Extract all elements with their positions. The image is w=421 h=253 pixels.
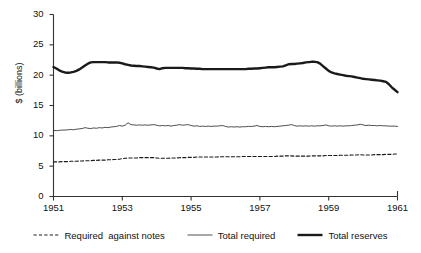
- chart-figure: $ (billions) 051015202530 19511953195519…: [0, 0, 421, 253]
- y-tick-label: 20: [22, 70, 44, 80]
- series-line: [54, 123, 398, 131]
- x-tick-label: 1959: [309, 203, 349, 213]
- y-tick-label: 5: [22, 161, 44, 171]
- y-tick-label: 10: [22, 130, 44, 140]
- y-tick-label: 30: [22, 9, 44, 19]
- legend-label: Total required: [218, 230, 276, 241]
- legend-swatch-solid-thick-icon: [297, 231, 323, 239]
- legend-entry[interactable]: Total required: [187, 230, 276, 241]
- y-tick-label: 25: [22, 39, 44, 49]
- legend-entry[interactable]: Total reserves: [297, 230, 387, 241]
- chart-legend: Required against notesTotal requiredTota…: [0, 224, 421, 246]
- x-tick-label: 1955: [171, 203, 211, 213]
- legend-label: Total reserves: [328, 230, 387, 241]
- x-tick-label: 1961: [378, 203, 418, 213]
- series-line: [54, 154, 398, 162]
- y-tick-label: 0: [22, 191, 44, 201]
- x-tick-label: 1957: [240, 203, 280, 213]
- legend-swatch-solid-thin-icon: [187, 231, 213, 239]
- data-series-group: [54, 62, 398, 162]
- y-tick-label: 15: [22, 100, 44, 110]
- legend-label: Required against notes: [64, 230, 164, 241]
- x-tick-label: 1953: [102, 203, 142, 213]
- axis-tick-marks: [50, 15, 398, 201]
- axis-spine: [54, 15, 398, 197]
- x-tick-label: 1951: [34, 203, 74, 213]
- legend-swatch-dashed-icon: [33, 231, 59, 239]
- series-line: [54, 62, 398, 92]
- plot-area: [0, 0, 421, 253]
- legend-entry[interactable]: Required against notes: [33, 230, 164, 241]
- axis-lines: [54, 15, 398, 197]
